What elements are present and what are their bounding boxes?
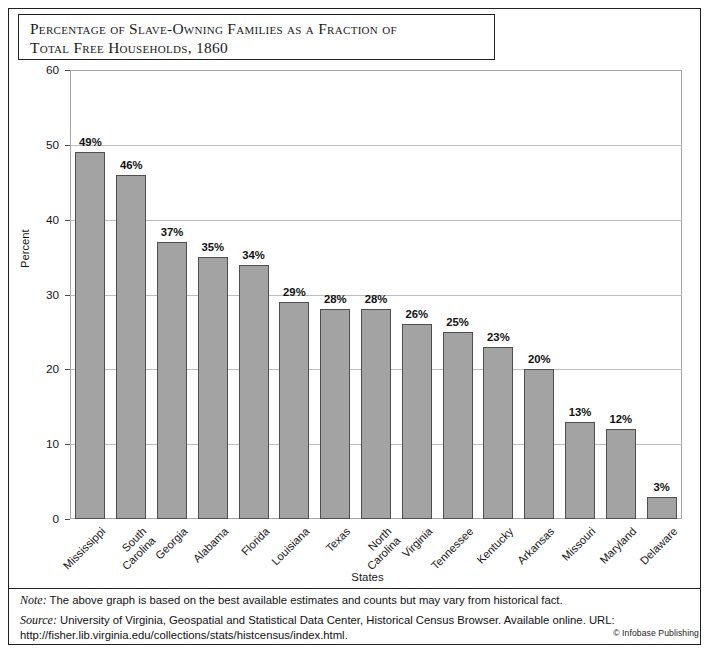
y-axis-tick [65,70,70,71]
bar [75,152,105,519]
bar [402,324,432,519]
source-text: University of Virginia, Geospatial and S… [20,614,615,641]
bar [157,242,187,519]
y-axis-tick-label: 30 [33,288,59,302]
y-axis-tick-label: 60 [33,63,59,77]
bar-chart: 0102030405060 Percent 49%46%37%35%34%29%… [0,0,711,652]
y-axis-tick-label: 0 [33,512,59,526]
bar [239,265,269,519]
bar-value-label: 20% [517,353,561,365]
source-line: Source: University of Virginia, Geospati… [20,613,696,643]
bar-value-label: 49% [68,136,112,148]
bar [279,302,309,519]
y-axis-tick [65,519,70,520]
bar [116,175,146,519]
bar-value-label: 25% [436,316,480,328]
bar-value-label: 46% [109,159,153,171]
bar-value-label: 23% [476,331,520,343]
bar [443,332,473,519]
note-text: The above graph is based on the best ava… [47,594,563,606]
bar-value-label: 28% [354,293,398,305]
y-axis-tick-label: 20 [33,362,59,376]
bar [361,309,391,519]
note-line: Note: The above graph is based on the be… [20,593,696,608]
y-axis-tick-label: 40 [33,213,59,227]
bar-value-label: 13% [558,406,602,418]
bar [198,257,228,519]
y-axis-tick [65,220,70,221]
bar [565,422,595,519]
bar-value-label: 3% [640,481,684,493]
copyright-notice: © Infobase Publishing [613,628,699,638]
footer-notes: Note: The above graph is based on the be… [20,593,696,644]
bar-value-label: 12% [599,413,643,425]
bar [320,309,350,519]
bar-value-label: 26% [395,308,439,320]
bar-value-label: 37% [150,226,194,238]
x-axis-title: States [0,571,711,583]
bar-value-label: 28% [313,293,357,305]
bar-value-label: 34% [232,249,276,261]
bar-value-label: 35% [191,241,235,253]
y-axis-tick [65,444,70,445]
footer-divider [9,588,700,589]
y-axis-tick [65,295,70,296]
note-label: Note: [20,593,47,607]
bar-value-label: 29% [272,286,316,298]
source-label: Source: [20,613,57,627]
bar [524,369,554,519]
bar [483,347,513,519]
y-axis-tick-label: 50 [33,138,59,152]
y-axis-title: Percent [19,188,31,268]
y-axis-tick [65,369,70,370]
bar [647,497,677,519]
bar [606,429,636,519]
y-axis-tick-label: 10 [33,437,59,451]
